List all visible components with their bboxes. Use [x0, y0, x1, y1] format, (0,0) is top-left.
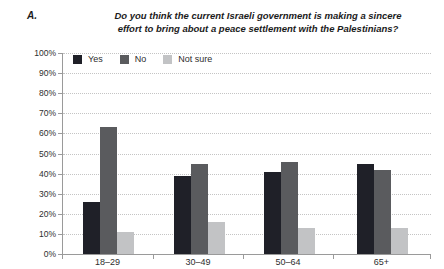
x-axis-label: 18–29 — [62, 257, 153, 267]
bar-group — [63, 127, 154, 254]
y-axis-label: 100% — [24, 48, 56, 58]
x-axis-label: 50–64 — [243, 257, 333, 267]
y-axis-tick — [58, 174, 63, 175]
bar-no — [100, 127, 117, 254]
x-axis-label: 30–49 — [153, 257, 243, 267]
y-axis-tick — [58, 113, 63, 114]
bar-no — [281, 162, 298, 254]
legend-label-not-sure: Not sure — [178, 54, 212, 64]
bar-no — [191, 164, 208, 254]
y-axis-label: 10% — [24, 229, 56, 239]
y-axis-label: 50% — [24, 149, 56, 159]
legend-item-yes: Yes — [73, 54, 103, 64]
x-axis-label: 65+ — [333, 257, 430, 267]
bar-not-sure — [298, 228, 315, 254]
legend-item-no: No — [120, 54, 147, 64]
y-axis-tick — [58, 93, 63, 94]
y-axis-label: 30% — [24, 189, 56, 199]
legend-item-not-sure: Not sure — [163, 54, 212, 64]
y-axis-tick — [58, 154, 63, 155]
legend-label-no: No — [135, 54, 147, 64]
plot-area — [62, 53, 431, 255]
legend: Yes No Not sure — [73, 54, 212, 64]
y-axis-label: 60% — [24, 128, 56, 138]
y-axis-tick — [58, 214, 63, 215]
figure: A. Do you think the current Israeli gove… — [0, 0, 444, 269]
bar-yes — [83, 202, 100, 254]
bar-no — [374, 170, 391, 254]
y-axis-label: 90% — [24, 68, 56, 78]
bar-not-sure — [208, 222, 225, 254]
bar-not-sure — [117, 232, 134, 254]
gridline — [63, 93, 431, 94]
x-axis-tick — [430, 255, 431, 259]
bar-yes — [174, 176, 191, 254]
y-axis-tick — [58, 234, 63, 235]
y-axis-label: 80% — [24, 88, 56, 98]
bar-group — [154, 164, 244, 254]
legend-swatch-not-sure — [163, 55, 172, 64]
legend-label-yes: Yes — [88, 54, 103, 64]
bar-not-sure — [391, 228, 408, 254]
legend-swatch-no — [120, 55, 129, 64]
gridline — [63, 73, 431, 74]
bar-group — [334, 164, 431, 254]
bar-group — [244, 162, 334, 254]
y-axis-tick — [58, 73, 63, 74]
y-axis-label: 40% — [24, 169, 56, 179]
bar-yes — [264, 172, 281, 254]
y-axis-label: 70% — [24, 108, 56, 118]
y-axis-tick — [58, 133, 63, 134]
y-axis-label: 20% — [24, 209, 56, 219]
gridline — [63, 113, 431, 114]
bar-yes — [357, 164, 374, 254]
y-axis-label: 0% — [24, 249, 56, 259]
legend-swatch-yes — [73, 55, 82, 64]
y-axis-tick — [58, 53, 63, 54]
y-axis-tick — [58, 194, 63, 195]
chart-area: Yes No Not sure 0%10%20%30%40%50%60%70%8… — [0, 0, 444, 269]
